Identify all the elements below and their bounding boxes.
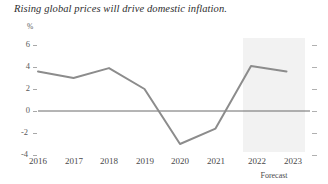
x-tick-label-2021: 2021: [199, 156, 233, 166]
x-tick-label-2017: 2017: [57, 156, 91, 166]
x-tick-label-2019: 2019: [128, 156, 162, 166]
x-tick-label-2018: 2018: [92, 156, 126, 166]
x-tick-label-2022: 2022: [240, 156, 274, 166]
x-tick-label-2020: 2020: [163, 156, 197, 166]
chart-figure: Rising global prices will drive domestic…: [0, 0, 328, 184]
x-tick-label-2016: 2016: [21, 156, 55, 166]
forecast-region-label: Forecast: [243, 171, 305, 180]
x-tick-label-2023: 2023: [276, 156, 310, 166]
inflation-line-series: [38, 66, 287, 144]
